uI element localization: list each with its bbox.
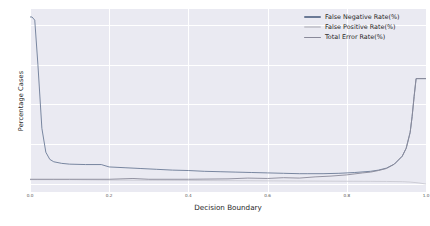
legend-item[interactable]: False Positive Rate(%)	[304, 23, 400, 31]
y-axis-title: Percentage Cases	[17, 46, 25, 156]
chart-legend: False Negative Rate(%)False Positive Rat…	[302, 11, 403, 43]
figure-canvas: Percentage Cases 010203040 0.00.20.40.60…	[0, 0, 430, 226]
legend-line-icon	[304, 26, 321, 27]
legend-item[interactable]: Total Error Rate(%)	[304, 33, 400, 41]
legend-item[interactable]: False Negative Rate(%)	[304, 13, 400, 21]
x-tick-label: 0.0	[27, 194, 34, 198]
x-tick-label: 0.6	[264, 194, 271, 198]
legend-label: False Positive Rate(%)	[325, 24, 395, 30]
x-tick-label: 0.8	[343, 194, 350, 198]
x-tick-label: 0.4	[185, 194, 192, 198]
x-tick-label: 1.0	[423, 194, 430, 198]
legend-line-icon	[304, 37, 321, 38]
legend-label: Total Error Rate(%)	[325, 34, 385, 40]
x-tick-label: 0.2	[106, 194, 113, 198]
legend-line-icon	[304, 16, 321, 17]
x-axis-title: Decision Boundary	[30, 203, 426, 212]
legend-label: False Negative Rate(%)	[325, 14, 400, 20]
series-line	[30, 180, 426, 184]
y-axis-title-wrap: Percentage Cases	[0, 9, 30, 192]
